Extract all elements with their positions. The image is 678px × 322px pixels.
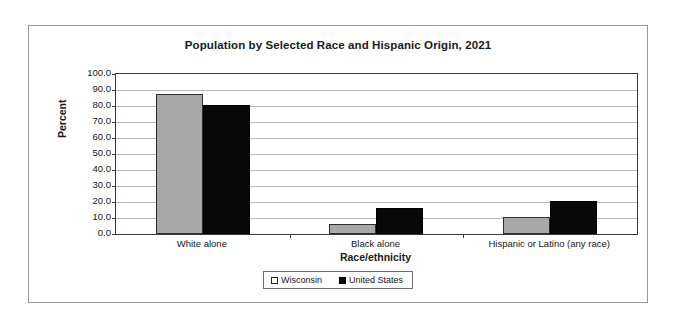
legend-swatch-icon [339,277,346,284]
bar-united-states [550,201,597,234]
x-tick-label: White alone [177,238,227,249]
x-axis-title: Race/ethnicity [115,251,636,263]
chart-title: Population by Selected Race and Hispanic… [29,39,647,51]
legend-label: United States [349,275,403,285]
bar-united-states [203,105,250,234]
y-tick-label: 40.0 [67,164,111,174]
y-tick-label: 70.0 [67,116,111,126]
x-tick-label: Black alone [351,238,400,249]
plot-area [115,73,638,235]
chart-figure-frame: Population by Selected Race and Hispanic… [28,25,648,303]
y-tick-label: 80.0 [67,100,111,110]
y-tick-label: 50.0 [67,148,111,158]
x-tick-label: Hispanic or Latino (any race) [488,238,609,249]
legend-entry-wisconsin: Wisconsin [271,275,322,285]
y-tick-label: 90.0 [67,84,111,94]
y-tick-label: 0.0 [67,228,111,238]
bar-wisconsin [156,94,203,234]
bar-wisconsin [503,217,550,234]
bar-wisconsin [329,224,376,234]
y-tick-label: 10.0 [67,212,111,222]
bar-group [290,74,464,234]
y-tick-mark [112,234,116,235]
y-axis-tick-labels: 100.090.080.070.060.050.040.030.020.010.… [67,73,111,233]
y-tick-label: 30.0 [67,180,111,190]
bar-group [463,74,637,234]
chart-legend: WisconsinUnited States [263,271,413,289]
y-tick-label: 20.0 [67,196,111,206]
x-axis-tick-labels: White aloneBlack aloneHispanic or Latino… [115,238,636,252]
y-tick-label: 100.0 [67,68,111,78]
legend-swatch-icon [271,277,278,284]
y-tick-label: 60.0 [67,132,111,142]
bar-united-states [376,208,423,234]
legend-entry-united-states: United States [339,275,403,285]
bar-group [116,74,290,234]
legend-label: Wisconsin [281,275,322,285]
